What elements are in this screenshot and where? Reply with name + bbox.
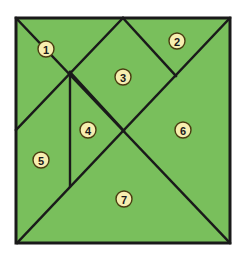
tangram-figure: 1234567 (0, 0, 244, 255)
piece-1-number: 1 (43, 44, 49, 56)
piece-6-label-badge: 6 (175, 122, 191, 138)
piece-6-number: 6 (180, 125, 186, 137)
piece-7-number: 7 (121, 194, 127, 206)
piece-2-label-badge: 2 (169, 33, 185, 49)
piece-2-number: 2 (174, 36, 180, 48)
piece-7-label-badge: 7 (116, 191, 132, 207)
piece-5-label-badge: 5 (33, 152, 49, 168)
tangram-diagram: 1234567 (0, 0, 244, 255)
piece-4-number: 4 (85, 125, 92, 137)
piece-5-number: 5 (38, 155, 44, 167)
piece-3-number: 3 (120, 72, 126, 84)
piece-4-label-badge: 4 (80, 122, 96, 138)
piece-3-label-badge: 3 (115, 69, 131, 85)
piece-1-label-badge: 1 (38, 41, 54, 57)
